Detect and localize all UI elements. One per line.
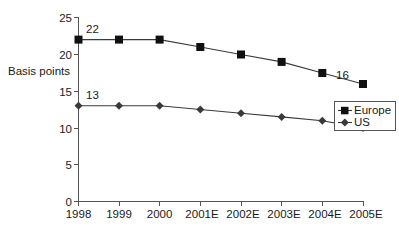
legend-label-us: US <box>354 116 370 128</box>
line-chart: Basis points 25 20 15 10 5 0 1998 1999 <box>0 0 399 239</box>
x-tick-label-2001E: 2001E <box>185 208 219 220</box>
data-point-us-2002E <box>237 109 245 117</box>
y-tick-label-15: 15 <box>59 86 72 98</box>
europe-start-label: 22 <box>86 23 99 35</box>
x-tick-label-2003E: 2003E <box>267 208 301 220</box>
x-tick-label-2002E: 2002E <box>226 208 260 220</box>
y-axis-label: Basis points <box>8 65 70 77</box>
x-tick-label-1999: 1999 <box>106 208 132 220</box>
x-tick-label-1998: 1998 <box>66 208 92 220</box>
x-tick-label-2004E: 2004E <box>308 208 342 220</box>
data-point-europe-2002E <box>237 51 245 59</box>
x-tick-label-2005E: 2005E <box>349 208 383 220</box>
series-markers-us <box>75 102 368 132</box>
series-line-us <box>79 106 364 128</box>
legend-label-europe: Europe <box>354 104 391 116</box>
chart-legend: Europe US <box>335 102 396 131</box>
data-point-europe-2004E <box>318 69 326 77</box>
data-point-us-2003E <box>278 113 286 121</box>
data-point-us-2001E <box>196 106 204 114</box>
series-line-europe <box>79 40 364 84</box>
series-markers-europe <box>75 36 368 88</box>
y-tick-label-5: 5 <box>66 159 72 171</box>
y-tick-label-25: 25 <box>59 12 72 24</box>
data-point-us-2000 <box>156 102 164 110</box>
y-tick-label-20: 20 <box>59 49 72 61</box>
data-point-europe-2005E <box>359 80 367 88</box>
legend-marker-square-icon <box>341 107 349 115</box>
data-point-europe-1999 <box>115 36 123 44</box>
data-point-europe-2000 <box>156 36 164 44</box>
data-point-europe-2003E <box>278 58 286 66</box>
x-tick-group: 1998 1999 2000 2001E 2002E 2003E 2004E 2… <box>66 202 383 221</box>
y-tick-label-10: 10 <box>59 123 72 135</box>
chart-page: Basis points 25 20 15 10 5 0 1998 1999 <box>0 0 399 239</box>
data-point-europe-1998 <box>75 36 83 44</box>
y-tick-label-0: 0 <box>66 196 72 208</box>
x-tick-label-2000: 2000 <box>147 208 173 220</box>
europe-end-label: 16 <box>336 69 349 81</box>
data-point-us-1998 <box>75 102 83 110</box>
data-point-us-2004E <box>318 117 326 125</box>
data-point-us-1999 <box>115 102 123 110</box>
us-start-label: 13 <box>86 89 99 101</box>
data-point-europe-2001E <box>196 43 204 51</box>
